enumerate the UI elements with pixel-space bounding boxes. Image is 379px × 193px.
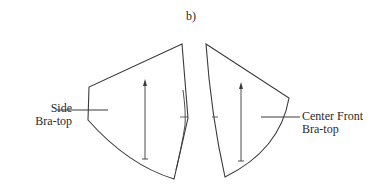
side-piece-inner-seam bbox=[176, 90, 185, 170]
cf-piece-outline bbox=[206, 44, 289, 177]
side-bra-top-piece bbox=[57, 44, 188, 179]
cf-grainline-arrow-icon bbox=[239, 82, 243, 89]
side-grainline-arrow-icon bbox=[143, 79, 147, 86]
side-piece-outline bbox=[88, 44, 188, 179]
center-front-bra-top-piece bbox=[206, 44, 300, 177]
pattern-diagram bbox=[0, 0, 379, 193]
